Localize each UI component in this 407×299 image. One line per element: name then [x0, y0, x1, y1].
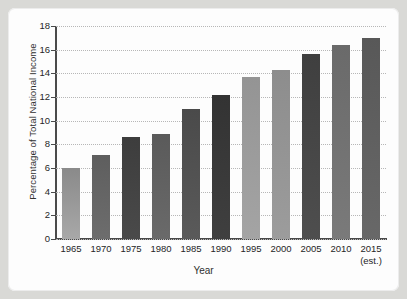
bar-slot	[326, 26, 356, 239]
x-tick-label: 1985	[176, 243, 206, 254]
y-tick-label: 10	[28, 115, 50, 126]
x-tick-label: 1965	[56, 243, 86, 254]
x-tick-label-text: 1965	[60, 243, 81, 254]
chart-figure: Percentage of Total National Income 0246…	[8, 8, 399, 291]
bar	[242, 77, 261, 239]
x-tick-label: 2000	[266, 243, 296, 254]
y-tick-label: 4	[28, 186, 50, 197]
y-tick-label: 18	[28, 20, 50, 31]
y-tick-label: 14	[28, 67, 50, 78]
y-tick-label: 8	[28, 138, 50, 149]
x-tick-label-text: 2000	[270, 243, 291, 254]
x-tick-label: 1980	[146, 243, 176, 254]
x-tick-label: 2015(est.)	[356, 243, 386, 266]
bar	[302, 54, 321, 239]
x-tick-label: 1990	[206, 243, 236, 254]
bar	[362, 38, 381, 239]
x-tick-label-text: 2015	[360, 243, 381, 254]
y-tick-label: 12	[28, 91, 50, 102]
bar-slot	[206, 26, 236, 239]
y-tick-label: 2	[28, 209, 50, 220]
y-tick-label: 6	[28, 162, 50, 173]
x-tick-label: 1995	[236, 243, 266, 254]
x-tick-label-text: 1970	[90, 243, 111, 254]
bar	[272, 70, 291, 239]
bar	[212, 95, 231, 239]
bar	[332, 45, 351, 239]
plot-area: 024681012141618	[56, 26, 386, 239]
x-tick-label: 2005	[296, 243, 326, 254]
x-tick-label-text: 1990	[210, 243, 231, 254]
bar-slot	[356, 26, 386, 239]
x-tick-label-text: 1975	[120, 243, 141, 254]
bar	[62, 168, 81, 239]
x-tick-label-text: 2010	[330, 243, 351, 254]
x-tick-label-text: 1985	[180, 243, 201, 254]
x-tick-label-text: 1980	[150, 243, 171, 254]
bar-series	[56, 26, 386, 239]
x-tick-label: 1975	[116, 243, 146, 254]
y-tick-mark	[51, 239, 56, 240]
x-tick-label-text: 2005	[300, 243, 321, 254]
bar	[122, 137, 141, 239]
x-axis-title: Year	[8, 265, 399, 276]
bar-slot	[86, 26, 116, 239]
bar-slot	[296, 26, 326, 239]
x-tick-label: 2010	[326, 243, 356, 254]
bar-slot	[146, 26, 176, 239]
bar	[182, 109, 201, 239]
bar-slot	[266, 26, 296, 239]
bar-slot	[236, 26, 266, 239]
bar-slot	[56, 26, 86, 239]
x-tick-label: 1970	[86, 243, 116, 254]
bar-slot	[116, 26, 146, 239]
bar	[152, 134, 171, 239]
y-tick-label: 16	[28, 44, 50, 55]
gridline	[56, 239, 386, 240]
bar	[92, 155, 111, 239]
x-tick-label-text: 1995	[240, 243, 261, 254]
y-tick-label: 0	[28, 233, 50, 244]
bar-slot	[176, 26, 206, 239]
